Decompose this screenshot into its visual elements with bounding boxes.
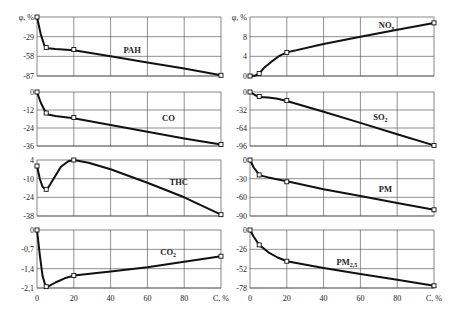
panel-nox: φ, %840NOx xyxy=(232,13,436,81)
y-tick-label: -78 xyxy=(236,284,247,293)
data-point-marker xyxy=(257,173,261,177)
x-tick-label: 80 xyxy=(180,294,188,303)
x-tick-label: 60 xyxy=(356,294,364,303)
data-point-marker xyxy=(72,48,76,52)
y-tick-label: 0 xyxy=(30,88,34,97)
y-tick-label: -10 xyxy=(23,175,34,184)
data-point-marker xyxy=(219,254,223,258)
series-label: THC xyxy=(169,177,187,187)
plot-area xyxy=(250,160,434,216)
data-point-marker xyxy=(285,259,289,263)
y-tick-label: 8 xyxy=(243,33,247,42)
data-point-marker xyxy=(44,46,48,50)
y-tick-label: -24 xyxy=(23,124,34,133)
x-tick-label: 0 xyxy=(248,294,252,303)
plot-area xyxy=(37,92,221,146)
panel-so2: 0-32-64-96SO2 xyxy=(236,88,436,151)
data-point-marker xyxy=(285,98,289,102)
y-tick-label: -60 xyxy=(236,193,247,202)
y-tick-label: φ, % xyxy=(232,13,248,22)
series-label: PM xyxy=(379,184,392,194)
y-tick-label: -2,1 xyxy=(21,284,34,293)
y-tick-label: -1,4 xyxy=(21,265,34,274)
data-point-marker xyxy=(44,111,48,115)
y-tick-label: -38 xyxy=(23,212,34,221)
data-point-marker xyxy=(248,158,252,162)
x-tick-label: 20 xyxy=(70,294,78,303)
x-tick-label: 60 xyxy=(143,294,151,303)
panel-co2: 0-0,7-1,4-2,1CO2020406080C, % xyxy=(21,226,229,303)
y-tick-label: -29 xyxy=(23,33,34,42)
data-point-marker xyxy=(432,208,436,212)
y-tick-label: 0 xyxy=(243,226,247,235)
x-tick-label: 40 xyxy=(107,294,115,303)
y-tick-label: -24 xyxy=(23,193,34,202)
x-tick-label: 20 xyxy=(283,294,291,303)
chart-canvas: φ, %-29-58-87PAHφ, %840NOx0-12-24-36CO0-… xyxy=(0,0,455,317)
data-point-marker xyxy=(35,164,39,168)
y-tick-label: 0 xyxy=(243,72,247,81)
x-tick-label: C, % xyxy=(213,294,229,303)
series-label: CO xyxy=(162,113,175,123)
data-point-marker xyxy=(257,72,261,76)
data-point-marker xyxy=(72,158,76,162)
data-point-marker xyxy=(219,213,223,217)
data-point-marker xyxy=(257,243,261,247)
plot-area xyxy=(250,17,434,76)
y-tick-label: -58 xyxy=(23,52,34,61)
y-tick-label: -52 xyxy=(236,265,247,274)
data-point-marker xyxy=(432,143,436,147)
data-point-marker xyxy=(219,143,223,147)
y-tick-label: 0 xyxy=(30,226,34,235)
x-tick-label: C, % xyxy=(426,294,442,303)
panel-thc: 4-10-24-38THC xyxy=(23,156,223,221)
y-tick-label: φ, % xyxy=(19,13,35,22)
x-tick-label: 40 xyxy=(320,294,328,303)
y-tick-label: -32 xyxy=(236,106,247,115)
data-point-marker xyxy=(432,21,436,25)
data-point-marker xyxy=(35,228,39,232)
y-tick-label: 4 xyxy=(30,156,34,165)
y-tick-label: 4 xyxy=(243,52,247,61)
data-point-marker xyxy=(285,180,289,184)
data-point-marker xyxy=(248,228,252,232)
y-tick-label: -0,7 xyxy=(21,245,34,254)
data-point-marker xyxy=(44,187,48,191)
data-point-marker xyxy=(219,73,223,77)
y-tick-label: -90 xyxy=(236,212,247,221)
x-tick-label: 80 xyxy=(393,294,401,303)
data-point-marker xyxy=(44,285,48,289)
panel-co: 0-12-24-36CO xyxy=(23,88,223,151)
y-tick-label: 0 xyxy=(243,88,247,97)
y-tick-label: -96 xyxy=(236,142,247,151)
data-point-marker xyxy=(35,15,39,19)
panel-pm: 0-30-60-90PM xyxy=(236,156,436,221)
emissions-chart-grid: φ, %-29-58-87PAHφ, %840NOx0-12-24-36CO0-… xyxy=(0,0,455,317)
data-point-marker xyxy=(72,274,76,278)
y-tick-label: -12 xyxy=(23,106,34,115)
y-tick-label: -87 xyxy=(23,72,34,81)
data-point-marker xyxy=(285,50,289,54)
data-point-marker xyxy=(257,95,261,99)
data-point-marker xyxy=(35,90,39,94)
x-tick-label: 0 xyxy=(35,294,39,303)
plot-area xyxy=(37,160,221,216)
data-point-marker xyxy=(72,116,76,120)
panel-pm25: 0-26-52-78PM2,5020406080C, % xyxy=(236,226,442,303)
data-point-marker xyxy=(248,74,252,78)
y-tick-label: -64 xyxy=(236,124,247,133)
panel-pah: φ, %-29-58-87PAH xyxy=(19,13,223,81)
y-tick-label: 0 xyxy=(243,156,247,165)
y-tick-label: -36 xyxy=(23,142,34,151)
y-tick-label: -26 xyxy=(236,245,247,254)
data-point-marker xyxy=(432,284,436,288)
data-point-marker xyxy=(248,90,252,94)
y-tick-label: -30 xyxy=(236,175,247,184)
series-label: PAH xyxy=(123,45,141,55)
